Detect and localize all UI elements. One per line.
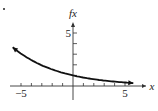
y-tick-label: 5 <box>66 27 72 39</box>
problem-marker <box>3 8 5 10</box>
y-axis-label: fx <box>69 7 77 19</box>
x-axis-arrow-icon <box>142 84 146 88</box>
y-axis-arrow-icon <box>71 22 75 27</box>
chart: −555xfx <box>0 0 158 111</box>
curve-right-arrow-icon <box>128 80 133 85</box>
x-tick-label: 5 <box>122 87 128 99</box>
axis-labels: −555xfx <box>15 7 154 99</box>
x-tick-label: −5 <box>15 87 27 99</box>
x-axis-label: x <box>149 80 155 92</box>
